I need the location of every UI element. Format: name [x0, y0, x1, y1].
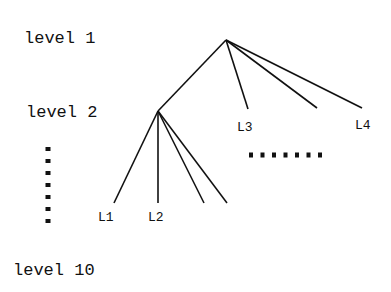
- ellipsis-dot: [318, 153, 322, 158]
- vertical-ellipsis: [46, 147, 51, 223]
- tree-edge: [158, 111, 227, 203]
- ellipsis-dot: [46, 159, 51, 163]
- level-label: level 1: [24, 29, 95, 48]
- level-label: level 10: [13, 261, 95, 280]
- ellipsis-dot: [46, 219, 51, 223]
- tree-edge: [226, 40, 248, 109]
- leaf-label: L4: [355, 118, 371, 133]
- tree-edge: [158, 111, 204, 203]
- leaf-label: L1: [98, 210, 114, 225]
- level-label: level 2: [26, 103, 97, 122]
- ellipsis-dot: [46, 195, 51, 199]
- leaf-labels: L1L2L3L4: [98, 118, 371, 225]
- horizontal-ellipsis: [249, 153, 322, 158]
- ellipsis-dot: [46, 183, 51, 187]
- leaf-label: L3: [237, 120, 253, 135]
- ellipsis-dot: [261, 153, 265, 158]
- tree-edge: [114, 111, 158, 203]
- ellipsis-dot: [46, 171, 51, 175]
- level-labels: level 1level 2level 10: [13, 29, 97, 280]
- leaf-label: L2: [148, 210, 164, 225]
- tree-edge: [158, 40, 226, 111]
- ellipsis-dot: [46, 147, 51, 151]
- ellipsis-dot: [307, 153, 311, 158]
- ellipsis-dot: [249, 153, 253, 158]
- ellipsis-dot: [46, 207, 51, 211]
- ellipsis-dot: [272, 153, 276, 158]
- tree-edge: [226, 40, 317, 108]
- tree-edge: [226, 40, 362, 108]
- tree-diagram: level 1level 2level 10 L1L2L3L4: [0, 0, 391, 292]
- ellipsis-dot: [284, 153, 288, 158]
- ellipsis-dot: [295, 153, 299, 158]
